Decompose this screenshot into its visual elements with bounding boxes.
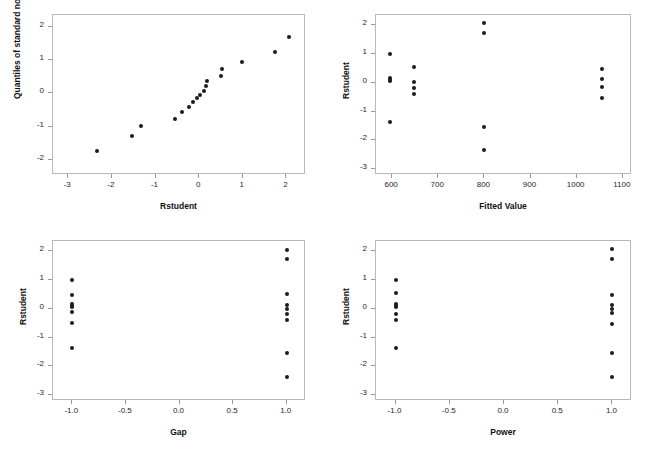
- x-axis-tick: [111, 174, 112, 178]
- y-axis-tick-label: -3: [341, 388, 367, 397]
- data-point: [220, 67, 224, 71]
- y-axis-tick-label: 2: [18, 244, 44, 253]
- x-axis-title: Fitted Value: [375, 201, 631, 211]
- data-point: [95, 149, 99, 153]
- data-point: [600, 96, 604, 100]
- data-point: [70, 321, 74, 325]
- residual-diagnostics-figure: -3-2-1012-2-1012RstudentQuantiles of sta…: [0, 0, 653, 452]
- x-axis-tick-label: 0.5: [212, 406, 252, 415]
- y-axis-tick: [371, 250, 375, 251]
- data-point: [412, 86, 416, 90]
- y-axis-tick-label: -2: [341, 359, 367, 368]
- data-point: [482, 21, 486, 25]
- data-point: [198, 93, 202, 97]
- data-point: [610, 247, 614, 251]
- y-axis-tick: [48, 279, 52, 280]
- data-point: [70, 293, 74, 297]
- x-axis-tick: [155, 174, 156, 178]
- data-point: [482, 148, 486, 152]
- x-axis-tick-label: -1.0: [51, 406, 91, 415]
- y-axis-tick-label: 1: [18, 273, 44, 282]
- data-point: [285, 303, 289, 307]
- y-axis-tick: [48, 126, 52, 127]
- data-point: [394, 318, 398, 322]
- x-axis-tick: [449, 400, 450, 404]
- data-point: [394, 312, 398, 316]
- y-axis-tick-label: 1: [341, 47, 367, 56]
- y-axis-title: Rstudent: [341, 288, 351, 325]
- x-axis-tick: [557, 400, 558, 404]
- y-axis-tick: [48, 308, 52, 309]
- y-axis-tick: [371, 279, 375, 280]
- data-point: [610, 293, 614, 297]
- x-axis-tick-label: -3: [47, 180, 87, 189]
- rstudent-vs-gap-plot-area: [52, 240, 305, 400]
- y-axis-title: Quantiles of standard normal: [12, 0, 22, 99]
- data-point: [285, 318, 289, 322]
- x-axis-tick-label: 800: [463, 180, 503, 189]
- data-point: [600, 77, 604, 81]
- rstudent-vs-fitted-value-points: [376, 15, 630, 173]
- y-axis-tick: [371, 337, 375, 338]
- data-point: [285, 257, 289, 261]
- x-axis-tick: [125, 400, 126, 404]
- x-axis-tick: [530, 174, 531, 178]
- data-point: [219, 74, 223, 78]
- x-axis-tick: [285, 174, 286, 178]
- y-axis-tick: [371, 139, 375, 140]
- data-point: [482, 125, 486, 129]
- y-axis-tick-label: -1: [18, 331, 44, 340]
- data-point: [600, 67, 604, 71]
- data-point: [412, 65, 416, 69]
- rstudent-vs-fitted-value-plot-area: [375, 14, 631, 174]
- rstudent-vs-gap-points: [53, 241, 304, 399]
- data-point: [204, 84, 208, 88]
- x-axis-tick-label: 1100: [602, 180, 642, 189]
- y-axis-tick: [371, 53, 375, 54]
- y-axis-tick-label: 2: [341, 18, 367, 27]
- y-axis-tick: [48, 394, 52, 395]
- data-point: [388, 79, 392, 83]
- y-axis-tick: [48, 26, 52, 27]
- x-axis-tick: [391, 174, 392, 178]
- data-point: [482, 31, 486, 35]
- data-point: [610, 257, 614, 261]
- y-axis-title: Rstudent: [341, 62, 351, 99]
- data-point: [70, 305, 74, 309]
- data-point: [394, 291, 398, 295]
- data-point: [70, 278, 74, 282]
- x-axis-tick: [198, 174, 199, 178]
- data-point: [412, 92, 416, 96]
- data-point: [205, 79, 209, 83]
- y-axis-tick-label: -1: [341, 331, 367, 340]
- y-axis-tick: [371, 111, 375, 112]
- x-axis-tick: [395, 400, 396, 404]
- data-point: [202, 89, 206, 93]
- x-axis-tick-label: 2: [265, 180, 305, 189]
- y-axis-tick: [371, 168, 375, 169]
- data-point: [388, 120, 392, 124]
- data-point: [610, 307, 614, 311]
- y-axis-tick-label: 1: [341, 273, 367, 282]
- data-point: [285, 375, 289, 379]
- data-point: [610, 351, 614, 355]
- x-axis-tick-label: 0.0: [483, 406, 523, 415]
- data-point: [187, 105, 191, 109]
- data-point: [180, 110, 184, 114]
- normal-quantile-plot-points: [53, 15, 304, 173]
- data-point: [600, 85, 604, 89]
- x-axis-tick: [67, 174, 68, 178]
- rstudent-vs-power-points: [376, 241, 630, 399]
- x-axis-tick: [622, 174, 623, 178]
- data-point: [130, 134, 134, 138]
- x-axis-tick: [483, 174, 484, 178]
- x-axis-tick-label: 1: [222, 180, 262, 189]
- y-axis-tick-label: -2: [18, 153, 44, 162]
- x-axis-tick: [576, 174, 577, 178]
- y-axis-tick-label: -1: [18, 120, 44, 129]
- panel-rstudent-vs-fitted-value: 60070080090010001100-3-2-1012Fitted Valu…: [327, 0, 653, 226]
- x-axis-tick-label: 0: [178, 180, 218, 189]
- x-axis-title: Power: [375, 427, 631, 437]
- x-axis-tick: [232, 400, 233, 404]
- x-axis-tick: [179, 400, 180, 404]
